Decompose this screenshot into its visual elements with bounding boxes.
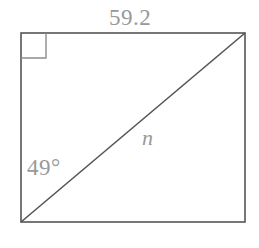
geometry-figure: 59.2 49° n (0, 0, 259, 248)
top-side-length-label: 59.2 (109, 6, 151, 29)
angle-measure-label: 49° (27, 156, 61, 179)
right-angle-marker-icon (21, 33, 46, 58)
diagonal-line (21, 33, 245, 222)
figure-canvas (0, 0, 259, 248)
diagonal-length-label: n (142, 127, 153, 149)
